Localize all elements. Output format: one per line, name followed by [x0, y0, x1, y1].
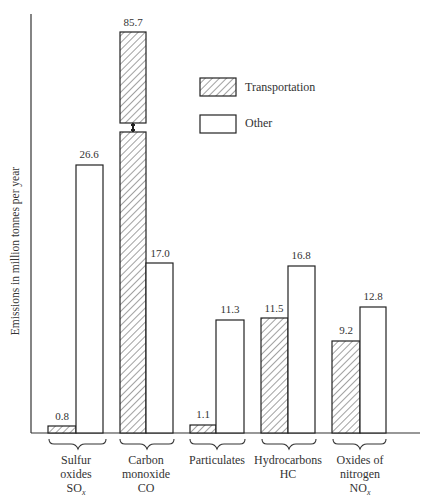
category-label-l2: HC: [280, 467, 297, 481]
bar-other: [360, 307, 386, 433]
value-label: 0.8: [55, 410, 69, 422]
chart: 0.8 26.6 85.7 17.0 1.1 11.3 11.5 16.8 9.…: [0, 0, 435, 499]
value-label: 12.8: [363, 290, 383, 302]
legend-swatch-transportation: [200, 78, 236, 96]
category-label-l1: Sulfur: [61, 453, 91, 467]
bar-transportation: [261, 318, 288, 433]
value-label: 17.0: [150, 247, 170, 259]
bar-transportation-lower: [120, 132, 146, 433]
category-label-l2: oxides: [60, 467, 92, 481]
bar-other: [216, 320, 244, 433]
category-braces: [49, 439, 386, 449]
bar-group-oxides-of-nitrogen: 9.2 12.8: [332, 290, 386, 433]
bar-transportation: [190, 425, 216, 433]
category-label-l3: CO: [138, 481, 155, 495]
category-label-l1: Particulates: [189, 453, 245, 467]
category-labels: Sulfur oxides SOx Carbon monoxide CO Par…: [60, 453, 383, 497]
bar-other: [146, 263, 173, 433]
value-label: 1.1: [196, 408, 210, 420]
legend-swatch-other: [200, 115, 236, 133]
bar-transportation: [332, 341, 360, 433]
bar-group-particulates: 1.1 11.3: [190, 303, 244, 433]
axis-break-icon: [131, 123, 135, 132]
bar-transportation: [48, 426, 76, 433]
legend-label-other: Other: [245, 116, 272, 130]
bar-group-hydrocarbons: 11.5 16.8: [261, 249, 315, 433]
value-label: 11.3: [221, 303, 240, 315]
bar-other: [76, 165, 103, 433]
category-label-l2: nitrogen: [340, 467, 380, 481]
legend-label-transportation: Transportation: [245, 80, 315, 94]
category-label-l2: monoxide: [122, 467, 170, 481]
value-label: 11.5: [265, 302, 284, 314]
category-label-l3: SOx: [67, 481, 86, 497]
bar-group-carbon-monoxide: 85.7 17.0: [120, 16, 173, 433]
value-label: 26.6: [79, 148, 99, 160]
value-label: 9.2: [339, 324, 353, 336]
bar-group-sulfur-oxides: 0.8 26.6: [48, 148, 103, 433]
value-label: 16.8: [291, 249, 311, 261]
value-label: 85.7: [123, 16, 143, 28]
category-label-l1: Hydrocarbons: [254, 453, 322, 467]
legend: Transportation Other: [200, 78, 315, 133]
category-label-l1: Carbon: [128, 453, 163, 467]
category-label-l3: NOx: [350, 481, 371, 497]
bar-other: [288, 266, 315, 433]
category-label-l1: Oxides of: [337, 453, 384, 467]
bar-transportation-upper: [120, 32, 146, 123]
